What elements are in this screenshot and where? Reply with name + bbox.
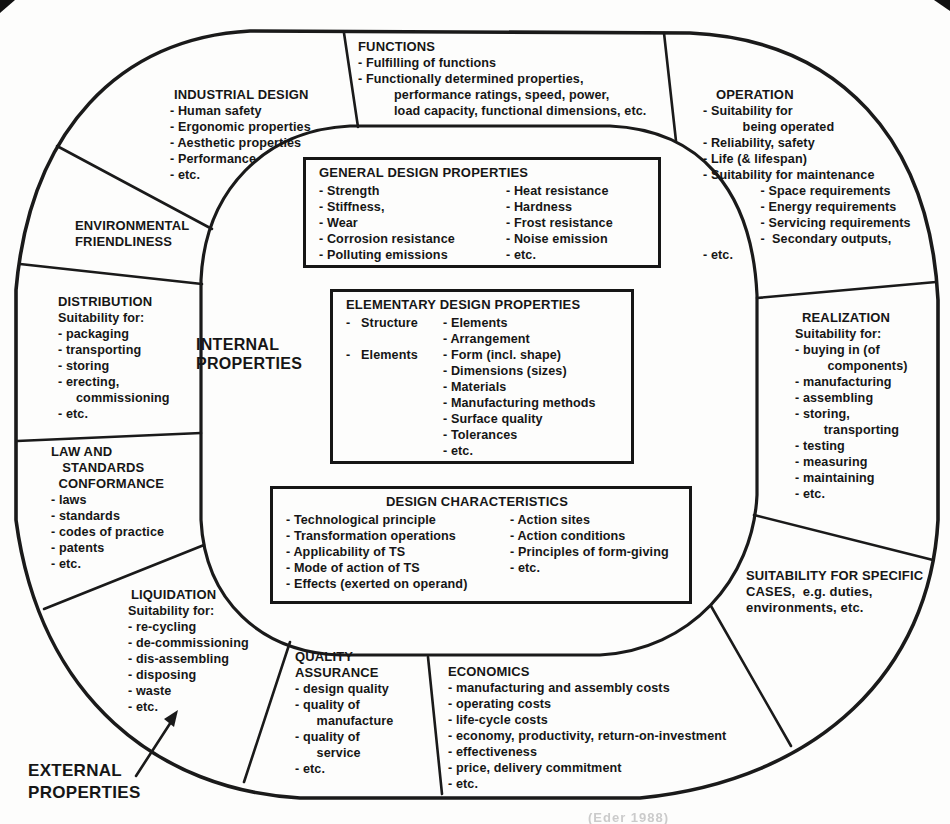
box-title: DESIGN CHARACTERISTICS	[273, 494, 681, 509]
diagram-canvas: INDUSTRIAL DESIGN - Human safety - Ergon…	[0, 0, 950, 824]
segment-realization: REALIZATION Suitability for: - buying in…	[795, 310, 908, 502]
segment-title: SUITABILITY FOR SPECIFIC CASES, e.g. dut…	[746, 568, 923, 616]
box-column-left: - Technological principle - Transformati…	[286, 512, 510, 592]
divider-law-distribution	[17, 433, 201, 441]
segment-title: ECONOMICS	[448, 664, 726, 680]
box-column-right: - Heat resistance - Hardness - Frost res…	[506, 183, 613, 263]
segment-items: - laws - standards - codes of practice -…	[51, 492, 164, 572]
segment-specific-cases: SUITABILITY FOR SPECIFIC CASES, e.g. dut…	[746, 568, 923, 616]
segment-title: DISTRIBUTION	[58, 294, 170, 310]
internal-properties-label: INTERNAL PROPERTIES	[196, 335, 302, 373]
box-column-right: - Action sites - Action conditions - Pri…	[510, 512, 669, 592]
box-column-right: - Elements - Arrangement - Form (incl. s…	[443, 315, 596, 459]
segment-title: ENVIRONMENTAL FRIENDLINESS	[75, 218, 189, 250]
segment-industrial-design: INDUSTRIAL DESIGN - Human safety - Ergon…	[170, 87, 311, 183]
box-columns: - Technological principle - Transformati…	[273, 512, 689, 592]
box-general-design-properties: GENERAL DESIGN PROPERTIES - Strength - S…	[303, 157, 661, 268]
box-design-characteristics: DESIGN CHARACTERISTICS - Technological p…	[270, 486, 692, 604]
segment-functions: FUNCTIONS - Fulfilling of functions - Fu…	[358, 39, 646, 119]
segment-items: Suitability for: - re-cycling - de-commi…	[128, 603, 249, 715]
segment-title: INDUSTRIAL DESIGN	[170, 87, 311, 103]
divider-functions-operation	[664, 33, 676, 141]
divider-distribution-environmental	[20, 264, 202, 284]
segment-environmental-friendliness: ENVIRONMENTAL FRIENDLINESS	[75, 218, 189, 250]
divider-industrial-functions	[344, 33, 358, 127]
segment-law-standards: LAW AND STANDARDS CONFORMANCE - laws - s…	[51, 444, 164, 572]
box-columns: - Structure - Elements - Elements - Arra…	[333, 315, 631, 459]
segment-liquidation: LIQUIDATION Suitability for: - re-cyclin…	[128, 587, 249, 715]
segment-items: - manufacturing and assembly costs - ope…	[448, 680, 726, 792]
segment-title: FUNCTIONS	[358, 39, 646, 55]
segment-operation: OPERATION - Suitability for being operat…	[703, 87, 911, 263]
segment-items: - Fulfilling of functions - Functionally…	[358, 55, 646, 119]
segment-items: - Human safety - Ergonomic properties - …	[170, 103, 311, 183]
external-properties-label: EXTERNAL PROPERTIES	[28, 760, 141, 804]
segment-title: LAW AND STANDARDS CONFORMANCE	[51, 444, 164, 492]
box-title: ELEMENTARY DESIGN PROPERTIES	[346, 297, 623, 312]
segment-title: REALIZATION	[795, 310, 908, 326]
segment-distribution: DISTRIBUTION Suitability for: - packagin…	[58, 294, 170, 422]
segment-items: Suitability for: - packaging - transport…	[58, 310, 170, 422]
segment-title: QUALITY ASSURANCE	[295, 649, 393, 681]
divider-quality-liquidation	[244, 642, 290, 782]
segment-items: Suitability for: - buying in (of compone…	[795, 326, 908, 502]
segment-items: - Suitability for being operated - Relia…	[703, 103, 911, 263]
corner-mark-topright	[934, 0, 950, 11]
box-title: GENERAL DESIGN PROPERTIES	[319, 165, 650, 180]
segment-economics: ECONOMICS - manufacturing and assembly c…	[448, 664, 726, 792]
box-column-left: - Structure - Elements	[346, 315, 443, 459]
box-elementary-design-properties: ELEMENTARY DESIGN PROPERTIES - Structure…	[330, 289, 634, 464]
divider-economics-quality	[428, 657, 442, 794]
divider-realization-specific	[754, 515, 933, 560]
caption-fragment: (Eder 1988)	[588, 810, 669, 824]
divider-operation-realization	[757, 282, 936, 298]
segment-title: OPERATION	[703, 87, 911, 103]
external-arrow-line	[136, 722, 171, 776]
box-columns: - Strength - Stiffness, - Wear - Corrosi…	[306, 183, 658, 263]
segment-title: LIQUIDATION	[128, 587, 249, 603]
segment-quality-assurance: QUALITY ASSURANCE - design quality - qua…	[295, 649, 393, 777]
segment-items: - design quality - quality of manufactur…	[295, 681, 393, 777]
corner-mark-topleft	[0, 0, 15, 13]
box-column-left: - Strength - Stiffness, - Wear - Corrosi…	[319, 183, 506, 263]
